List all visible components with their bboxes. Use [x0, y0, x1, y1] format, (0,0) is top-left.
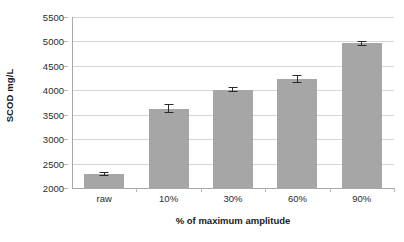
x-axis-tick-label: 60%: [288, 193, 307, 204]
x-axis-tickmark: [394, 188, 395, 192]
bar: [277, 79, 317, 188]
x-axis-tickmark: [136, 188, 137, 192]
y-axis-tickmark: [64, 17, 68, 18]
plot-area: [72, 17, 394, 188]
x-axis-tickmark: [330, 188, 331, 192]
y-axis-tick-label: 3000: [43, 134, 64, 145]
y-axis-tickmark: [64, 188, 68, 189]
error-bar: [100, 172, 109, 176]
x-axis-tick-labels: raw10%30%60%90%: [72, 193, 394, 209]
x-axis-tickmark: [265, 188, 266, 192]
error-bar: [164, 104, 173, 113]
error-bar-cap-top: [293, 75, 302, 76]
y-axis-tickmark: [64, 115, 68, 116]
bar: [84, 174, 124, 188]
error-bar: [357, 41, 366, 46]
x-axis-tick-label: 10%: [159, 193, 178, 204]
error-bar-cap-top: [228, 87, 237, 88]
bar: [342, 43, 382, 188]
bar-group: [265, 17, 329, 188]
x-axis-title: % of maximum amplitude: [72, 215, 394, 226]
bar-group: [72, 17, 136, 188]
y-axis-tick-label: 4000: [43, 85, 64, 96]
error-bar: [293, 75, 302, 82]
error-bar-cap-bottom: [357, 45, 366, 46]
bar-group: [136, 17, 200, 188]
x-axis-tickmark: [201, 188, 202, 192]
y-axis-tick-label: 5000: [43, 36, 64, 47]
x-axis-tick-label: 30%: [223, 193, 242, 204]
y-axis-tickmark: [64, 41, 68, 42]
y-axis-tick-label: 2000: [43, 183, 64, 194]
x-axis-tick-label: 90%: [352, 193, 371, 204]
error-bar-cap-top: [100, 172, 109, 173]
bar-chart-figure: SCOD mg/L 200025003000350040004500500055…: [0, 0, 404, 242]
y-axis-tickmark: [64, 139, 68, 140]
y-axis-tick-label: 3500: [43, 109, 64, 120]
error-bar-cap-bottom: [228, 91, 237, 92]
y-axis-tickmark: [64, 90, 68, 91]
bar: [213, 90, 253, 188]
y-axis-tick-label: 2500: [43, 158, 64, 169]
error-bar-cap-bottom: [293, 82, 302, 83]
error-bar: [228, 87, 237, 91]
bar-group: [201, 17, 265, 188]
error-bar-cap-bottom: [164, 112, 173, 113]
x-axis-tick-label: raw: [97, 193, 112, 204]
y-axis-title: SCOD mg/L: [0, 0, 20, 190]
error-bar-cap-top: [357, 41, 366, 42]
error-bar-cap-bottom: [100, 175, 109, 176]
bar-group: [330, 17, 394, 188]
y-axis-title-text: SCOD mg/L: [5, 68, 16, 122]
y-axis-tick-label: 4500: [43, 60, 64, 71]
error-bar-cap-top: [164, 104, 173, 105]
y-axis-tick-label: 5500: [43, 12, 64, 23]
y-axis-tickmark: [64, 66, 68, 67]
y-axis-tick-labels: 20002500300035004000450050005500: [20, 10, 68, 190]
bar: [149, 109, 189, 188]
bars-layer: [72, 17, 394, 188]
y-axis-tickmark: [64, 164, 68, 165]
x-axis-tickmarks: [72, 188, 394, 192]
